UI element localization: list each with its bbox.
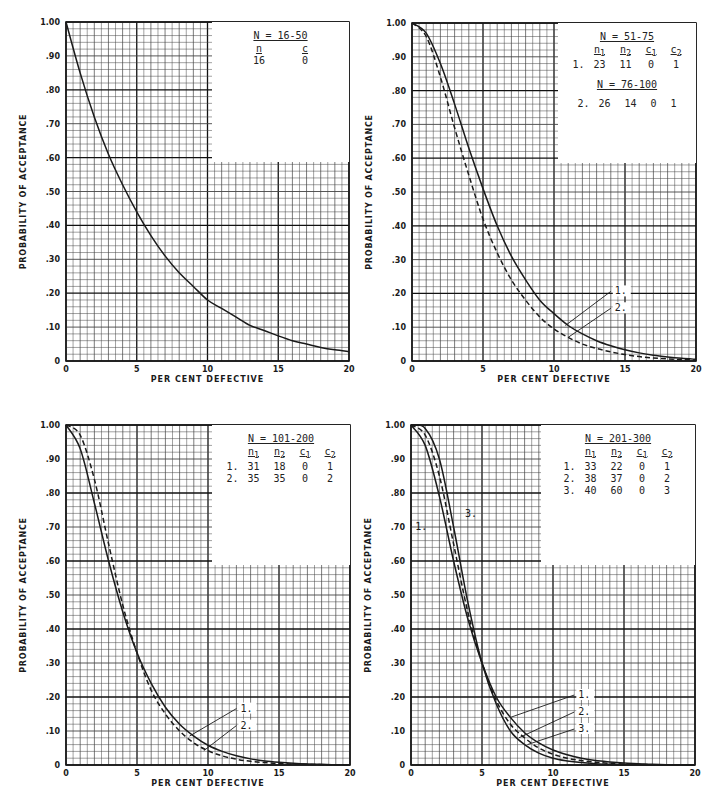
- x-tick-label: 0: [63, 365, 69, 374]
- legend-cell: 40: [577, 485, 603, 497]
- y-tick-label: 0: [54, 761, 60, 770]
- x-tick-label: 15: [618, 769, 630, 778]
- y-tick-label: 1.00: [40, 18, 60, 27]
- legend-cell: 2: [318, 473, 343, 485]
- y-tick-label: .80: [391, 489, 406, 498]
- legend-title: N = 201-300: [541, 433, 695, 444]
- legend-table: n1 n2 c1 c2 1. 31 18 0 1 2. 35 35 0 2: [219, 446, 342, 485]
- legend-cell: 0: [630, 461, 655, 473]
- legend-row-index: 1.: [556, 461, 577, 473]
- y-tick-label: .90: [46, 52, 61, 61]
- x-axis-label: PER CENT DEFECTIVE: [151, 779, 265, 788]
- legend-header-n: n: [246, 43, 295, 55]
- legend-cell: 11: [612, 59, 638, 71]
- legend-cell: 1: [664, 98, 684, 110]
- legend-row-index: 3.: [556, 485, 577, 497]
- y-axis-label: PROBABILITY OF ACCEPTANCE: [364, 517, 373, 673]
- y-tick-label: .20: [46, 289, 61, 298]
- y-tick-label: .80: [46, 489, 61, 498]
- legend-header-n2: n2: [603, 446, 629, 461]
- legend-row-index: 2.: [570, 98, 591, 110]
- x-axis-label: PER CENT DEFECTIVE: [496, 779, 610, 788]
- x-tick-label: 10: [547, 769, 559, 778]
- x-tick-label: 5: [134, 769, 140, 778]
- y-tick-label: .50: [46, 188, 61, 197]
- y-tick-label: .90: [391, 455, 406, 464]
- legend-cell: 35: [266, 473, 292, 485]
- legend-cell: 3: [655, 485, 680, 497]
- y-tick-label: .40: [392, 222, 407, 231]
- legend-cell: 2: [655, 473, 680, 485]
- x-tick-label: 5: [480, 365, 486, 374]
- y-tick-label: .60: [46, 557, 61, 566]
- y-tick-label: .30: [46, 255, 61, 264]
- curve-annotation-label: 3.: [578, 723, 590, 734]
- legend-cell: 0: [630, 473, 655, 485]
- curve-annotation-label: 2.: [615, 302, 627, 313]
- legend-box: N = 201-300 n1 n2 c1 c2 1. 33 22 0 1 2. …: [541, 425, 695, 565]
- chart-panel-bottom-left: 0.10.20.30.40.50.60.70.80.901.0005101520…: [0, 403, 362, 796]
- y-tick-label: .30: [392, 256, 407, 265]
- legend-cell: 31: [240, 461, 266, 473]
- x-tick-label: 15: [619, 365, 631, 374]
- legend-row-index: 2.: [219, 473, 240, 485]
- y-tick-label: 1.00: [386, 19, 406, 28]
- x-axis-label: PER CENT DEFECTIVE: [151, 375, 265, 384]
- legend-row-index: 1.: [219, 461, 240, 473]
- legend-index-header: [556, 446, 577, 461]
- curve-annotation-label: 3.: [465, 508, 477, 519]
- legend-box: N = 51-75 n1 n2 c1 c2 1. 23 11 0 1 N = 7…: [558, 23, 696, 163]
- legend-header-c2: c2: [655, 446, 680, 461]
- legend-index-header: [219, 446, 240, 461]
- legend-cell: 60: [603, 485, 629, 497]
- y-tick-label: 1.00: [385, 421, 405, 430]
- y-tick-label: .10: [392, 323, 407, 332]
- legend-header-c2: c2: [318, 446, 343, 461]
- y-tick-label: .70: [46, 120, 61, 129]
- y-tick-label: .70: [391, 523, 406, 532]
- legend-title-2: N = 76-100: [558, 79, 696, 90]
- y-axis-label: PROBABILITY OF ACCEPTANCE: [365, 114, 374, 270]
- curve-annotation-label: 2.: [578, 706, 590, 717]
- legend-header-c1: c1: [630, 446, 655, 461]
- legend-cell: 33: [577, 461, 603, 473]
- legend-cell: 23: [586, 59, 612, 71]
- curve-annotation-label: 1.: [415, 521, 427, 532]
- x-tick-label: 0: [409, 365, 415, 374]
- legend-title: N = 51-75: [558, 31, 696, 42]
- x-tick-label: 15: [273, 769, 285, 778]
- legend-index-header: [565, 44, 586, 59]
- legend-cell: 1: [664, 59, 689, 71]
- legend-header-n1: n1: [586, 44, 612, 59]
- legend-header-n2: n2: [612, 44, 638, 59]
- x-tick-label: 10: [202, 769, 214, 778]
- x-tick-label: 15: [273, 365, 285, 374]
- y-tick-label: .50: [391, 591, 406, 600]
- x-axis-label: PER CENT DEFECTIVE: [497, 375, 611, 384]
- y-tick-label: .40: [391, 625, 406, 634]
- legend-header-c1: c1: [293, 446, 318, 461]
- x-tick-label: 10: [202, 365, 214, 374]
- legend-header-c2: c2: [664, 44, 689, 59]
- x-tick-label: 20: [689, 769, 701, 778]
- chart-panel-top-right: 0.10.20.30.40.50.60.70.80.901.0005101520…: [346, 0, 724, 395]
- x-tick-label: 0: [63, 769, 69, 778]
- y-tick-label: 0: [399, 761, 405, 770]
- y-tick-label: .70: [46, 523, 61, 532]
- y-tick-label: .10: [391, 727, 406, 736]
- curve-annotation-label: 1.: [240, 703, 252, 714]
- y-axis-label: PROBABILITY OF ACCEPTANCE: [19, 114, 28, 270]
- legend-cell: 38: [577, 473, 603, 485]
- legend-box: N = 101-200 n1 n2 c1 c2 1. 31 18 0 1 2. …: [212, 425, 350, 565]
- curve-annotation-label: 1.: [578, 689, 590, 700]
- y-tick-label: .10: [46, 727, 61, 736]
- legend-title: N = 16-50: [212, 30, 349, 41]
- curve-annotation-label: 1.: [615, 285, 627, 296]
- x-tick-label: 20: [690, 365, 702, 374]
- x-tick-label: 5: [479, 769, 485, 778]
- x-tick-label: 10: [548, 365, 560, 374]
- y-tick-label: 0: [54, 357, 60, 366]
- legend-cell: 0: [293, 473, 318, 485]
- legend-table: nc 160: [246, 43, 315, 67]
- y-tick-label: .60: [392, 154, 407, 163]
